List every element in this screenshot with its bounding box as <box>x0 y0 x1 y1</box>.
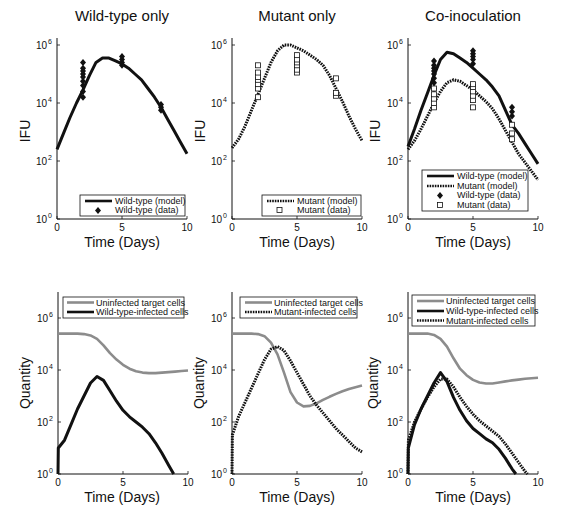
legend-label: Mutant (data) <box>297 205 351 215</box>
series-line <box>232 334 362 407</box>
x-tick-label: 5 <box>119 222 125 233</box>
y-tick-exponent: 6 <box>223 311 227 318</box>
series-line <box>58 377 174 475</box>
legend: Wild-type (model) Wild-type (data) <box>80 195 186 216</box>
x-axis-label: Time (Days) <box>84 489 160 505</box>
panel-title: Mutant only <box>258 7 336 24</box>
y-tick-exponent: 0 <box>399 212 403 219</box>
y-tick-label: 10 <box>387 365 399 376</box>
y-tick-label: 10 <box>211 98 223 109</box>
legend-label: Wild-type-infected cells <box>96 307 189 317</box>
series-layer <box>232 334 362 474</box>
x-tick-label: 10 <box>181 222 193 233</box>
y-tick-label: 10 <box>37 313 49 324</box>
y-tick-exponent: 6 <box>48 38 52 45</box>
y-tick-label: 10 <box>211 417 223 428</box>
series-line <box>408 373 516 474</box>
y-tick-exponent: 0 <box>49 467 53 474</box>
y-tick-exponent: 4 <box>49 363 53 370</box>
y-tick-label: 10 <box>211 313 223 324</box>
panel-mutant-cells: Quantity Time (Days) 0510100102104106 Un… <box>191 292 368 505</box>
y-tick-exponent: 0 <box>223 467 227 474</box>
x-tick-label: 0 <box>55 477 61 488</box>
x-tick-label: 0 <box>405 222 411 233</box>
legend: Uninfected target cells Wild-type-infect… <box>63 297 189 318</box>
y-tick-exponent: 6 <box>223 38 227 45</box>
y-tick-exponent: 0 <box>399 467 403 474</box>
y-tick-label: 10 <box>211 469 223 480</box>
legend: Uninfected target cells Wild-type-infect… <box>412 295 539 326</box>
panel-coinoculation-ifu: Co-inoculation IFU Time (Days) 051010010… <box>367 7 544 250</box>
square-marker-icon <box>295 53 300 58</box>
x-axis-label: Time (Days) <box>84 234 160 250</box>
diamond-marker-icon <box>431 57 437 64</box>
y-tick-exponent: 6 <box>49 311 53 318</box>
x-tick-label: 5 <box>470 222 476 233</box>
legend-label: Wild-type-infected cells <box>446 306 539 316</box>
y-tick-label: 10 <box>387 469 399 480</box>
y-tick-exponent: 6 <box>399 311 403 318</box>
x-tick-label: 5 <box>470 477 476 488</box>
square-marker-icon <box>432 92 437 97</box>
square-marker-icon <box>334 76 339 81</box>
series-layer <box>408 334 538 474</box>
y-tick-label: 10 <box>387 313 399 324</box>
series-layer <box>232 45 362 148</box>
y-tick-exponent: 2 <box>223 154 227 161</box>
axes: 0510100102104106 <box>37 292 194 488</box>
legend-label: Wild-type (data) <box>115 205 179 215</box>
y-tick-label: 10 <box>37 365 49 376</box>
y-tick-label: 10 <box>36 40 48 51</box>
square-marker-icon <box>432 86 437 91</box>
panel-wild-type-ifu: Wild-type only IFU Time (Days) 051010010… <box>17 7 193 250</box>
x-tick-label: 0 <box>229 222 235 233</box>
x-tick-label: 10 <box>356 477 368 488</box>
series-layer <box>57 53 187 154</box>
x-tick-label: 5 <box>120 477 126 488</box>
y-tick-label: 10 <box>211 40 223 51</box>
panel-wild-type-cells: Quantity Time (Days) 0510100102104106 Un… <box>17 292 194 505</box>
y-tick-exponent: 2 <box>49 415 53 422</box>
y-tick-label: 10 <box>36 156 48 167</box>
square-marker-icon <box>510 137 515 142</box>
square-marker-icon <box>471 105 476 110</box>
y-tick-exponent: 2 <box>399 415 403 422</box>
y-tick-exponent: 4 <box>399 363 403 370</box>
legend-label: Mutant-infected cells <box>274 307 357 317</box>
y-axis-label: Quantity <box>17 357 33 409</box>
y-tick-label: 10 <box>211 365 223 376</box>
x-tick-label: 5 <box>294 222 300 233</box>
panel-mutant-ifu: Mutant only IFU Time (Days) 051010010210… <box>192 7 368 250</box>
square-marker-icon <box>334 90 339 95</box>
x-axis-label: Time (Days) <box>435 234 511 250</box>
square-marker-icon <box>277 208 282 213</box>
y-tick-exponent: 4 <box>48 96 52 103</box>
x-tick-label: 10 <box>532 477 544 488</box>
diamond-marker-icon <box>80 59 86 66</box>
y-axis-label: IFU <box>367 120 383 143</box>
x-axis-label: Time (Days) <box>259 489 335 505</box>
x-tick-label: 10 <box>182 477 194 488</box>
x-tick-label: 10 <box>356 222 368 233</box>
square-marker-icon <box>256 70 261 75</box>
x-axis-label: Time (Days) <box>435 489 511 505</box>
square-marker-icon <box>256 63 261 68</box>
legend: Uninfected target cells Mutant-infected … <box>240 297 364 318</box>
square-marker-icon <box>510 122 515 127</box>
y-axis-label: IFU <box>17 120 33 143</box>
legend-label: Uninfected target cells <box>446 296 536 306</box>
y-tick-label: 10 <box>387 417 399 428</box>
diamond-marker-icon <box>509 104 515 111</box>
series-line <box>408 379 528 474</box>
square-marker-icon <box>256 95 261 100</box>
y-tick-label: 10 <box>36 214 48 225</box>
y-tick-label: 10 <box>37 469 49 480</box>
legend-label: Uninfected target cells <box>274 298 364 308</box>
x-tick-label: 0 <box>54 222 60 233</box>
y-tick-exponent: 6 <box>399 38 403 45</box>
y-tick-label: 10 <box>36 98 48 109</box>
legend: Mutant (model) Mutant (data) <box>262 195 361 216</box>
series-line <box>57 58 187 154</box>
y-tick-label: 10 <box>387 156 399 167</box>
panel-title: Wild-type only <box>75 7 170 24</box>
